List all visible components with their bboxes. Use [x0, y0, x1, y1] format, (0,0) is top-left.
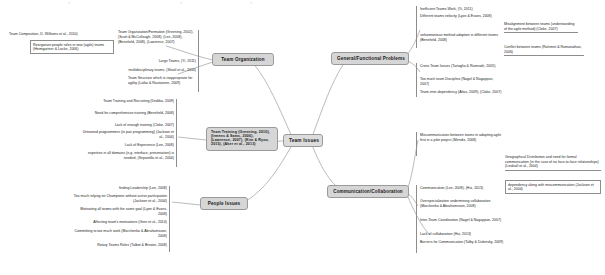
leaf-misalignment-between-teams: Misalignment between teams (understandin… — [504, 22, 578, 33]
branch-team-training[interactable]: Team Training (Greening, 2010), (Irmens … — [206, 127, 278, 151]
leaf-large-teams: Large Teams, (Yi, 2011) — [117, 59, 197, 64]
leaf-motivating-all-teams: Motivating all teams with the same goal … — [72, 207, 168, 217]
leaf-finding-leadership: finding Leadership (Lee, 2008) — [72, 186, 168, 191]
leaf-untrained-programmers: Untrained programmers (in pair programmi… — [80, 130, 175, 140]
leaf-miscommunication-pilot-project: Miscommunication between teams in adopti… — [419, 133, 505, 143]
leaf-unharmonious-method-adoption: unharmonious method adoption in differen… — [419, 33, 499, 43]
leaf-need-comprehensive-training: Need for comprehensive training (Benefie… — [80, 111, 175, 116]
leaf-dependency-miscommunication: dependency along with miscommunication (… — [505, 180, 601, 194]
leaf-rotary-teams-roles: Rotary Teams Roles (Talbot & Brewer, 200… — [72, 243, 168, 248]
leaf-inter-team-coordination: Inter-Team Coordination (Nagel & Nagappa… — [419, 218, 505, 223]
leaf-reorganize-roles: Reorganize people roles in new (agile) t… — [30, 40, 114, 54]
leaf-affecting-team-motivations: Affecting team's motivations (Gren et al… — [60, 220, 168, 225]
branch-people-issues[interactable]: People Issues — [200, 197, 248, 210]
leaf-too-much-team-discipline: Too much team Discipline (Nagel & Nagapp… — [419, 77, 501, 87]
leaf-different-teams-velocity: Different teams velocity (Lyon & Evans, … — [419, 14, 527, 19]
left-bottom-group-rule — [169, 186, 170, 252]
leaf-relying-on-champions: Too much relying on Champions without ac… — [72, 194, 168, 204]
left-middle-group-rule — [176, 99, 177, 167]
central-node-team-issues[interactable]: Team Issues — [283, 134, 323, 147]
leaf-team-composition-heading: Team Composition, D. Williams et al., 20… — [8, 32, 112, 37]
leaf-communication: Communication (Lee, 2008), (Hui, 2013) — [419, 186, 515, 191]
leaf-team-structure-inappropriate: Team Structure which is inappropriate fo… — [127, 76, 197, 86]
branch-team-training-label: Team Training (Greening, 2010), (Irmens … — [211, 130, 270, 146]
scan-artifact-3: ○ — [250, 0, 252, 5]
left-top-group-rule — [198, 30, 199, 92]
leaf-expertise-all-domains: expertise in all domains (e.g. interface… — [80, 151, 175, 161]
leaf-lack-of-collaboration: Lack of collaboration (Hui, 2013) — [419, 232, 505, 237]
leaf-barriers-for-communication: Barriers for Communication (Talby & Dubi… — [419, 240, 505, 245]
leaf-conflict-between-teams: Conflict between teams (Rahimet & Ramana… — [504, 45, 584, 56]
right-comm-group-rule — [416, 132, 417, 156]
branch-general-functional-problems[interactable]: General/Functional Problems — [331, 52, 409, 65]
leaf-team-inter-dependency: Team inter-dependency (Atlas, 2009), (Cl… — [419, 90, 529, 95]
leaf-team-organization-formation-heading: Team Organization/Formation (Greening, 2… — [117, 30, 197, 45]
right-comm-group-rule-2 — [416, 185, 417, 253]
leaf-lack-enough-training: Lack of enough training (Cloke, 2007) — [80, 123, 175, 128]
mindmap-canvas: ○ ○ ○ Team Composition, D. Williams et a… — [0, 0, 605, 275]
leaf-overspecialization-collaboration: Overspecialization undermining collabora… — [419, 199, 505, 209]
right-top-group-rule — [416, 6, 417, 48]
leaf-inefficient-teams-work: Inefficient Teams Work, (Yi, 2011) — [419, 7, 519, 12]
leaf-committing-too-much-work: Committing to too much work (Marchenko &… — [72, 229, 168, 239]
right-middle-group-rule — [416, 63, 417, 97]
scan-artifact-2: ○ — [180, 0, 182, 5]
leaf-cross-team-issues: Cross Team Issues (Tartaglia & Ramnath, … — [419, 64, 501, 69]
branch-team-organization[interactable]: Team Organization — [212, 53, 274, 66]
leaf-geographical-distribution: Geographical Distribution and need for f… — [505, 155, 601, 171]
scan-artifact-1: ○ — [68, 0, 70, 5]
branch-communication-collaboration[interactable]: Communication/Collaboration — [327, 185, 409, 198]
leaf-lack-of-experience: Lack of Experience (Lee, 2008) — [80, 143, 175, 148]
leaf-team-training-recruiting: Team Training and Recruiting (Drobka, 20… — [80, 99, 175, 104]
leaf-multidisciplinary-teams: multidisciplinary teams, (Shatil et al.,… — [104, 68, 197, 73]
